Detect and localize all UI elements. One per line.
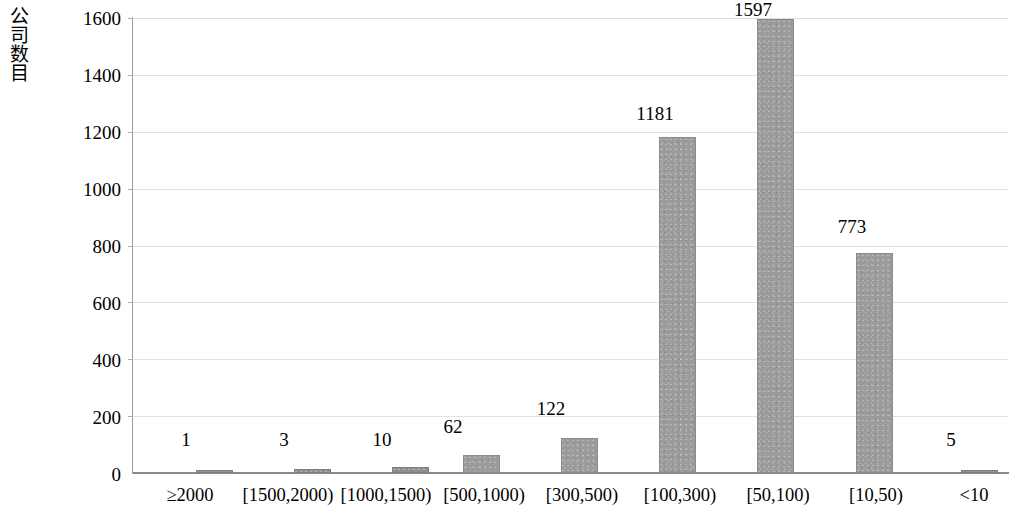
bar-6 bbox=[757, 19, 794, 473]
y-axis-tick-labels: 1600 1400 1200 1000 800 600 400 200 0 bbox=[55, 0, 121, 509]
bar-5 bbox=[659, 137, 696, 473]
data-label-1: 3 bbox=[254, 430, 314, 449]
tick-mark bbox=[128, 359, 133, 360]
y-tick-label: 1200 bbox=[55, 123, 121, 142]
bar-8 bbox=[961, 470, 998, 473]
data-label-5: 1181 bbox=[619, 104, 691, 123]
bar-0 bbox=[196, 470, 233, 473]
y-tick-label: 600 bbox=[55, 294, 121, 313]
y-tick-label: 0 bbox=[55, 465, 121, 484]
tick-mark bbox=[128, 132, 133, 133]
x-tick-label-6: [50,100) bbox=[729, 484, 827, 506]
y-tick-label: 200 bbox=[55, 408, 121, 427]
y-tick-label: 400 bbox=[55, 351, 121, 370]
x-tick-label-4: [300,500) bbox=[533, 484, 631, 506]
gridline-1200 bbox=[133, 132, 1008, 133]
y-tick-label: 1600 bbox=[55, 9, 121, 28]
x-tick-label-1: [1500,2000) bbox=[239, 484, 337, 506]
y-axis-title: 公司数目 bbox=[4, 6, 30, 82]
data-label-8: 5 bbox=[921, 430, 981, 449]
tick-mark bbox=[128, 246, 133, 247]
data-label-6: 1597 bbox=[717, 0, 789, 19]
y-tick-label: 800 bbox=[55, 237, 121, 256]
data-label-0: 1 bbox=[156, 430, 216, 449]
data-label-7: 773 bbox=[819, 217, 885, 236]
data-label-2: 10 bbox=[352, 430, 412, 449]
tick-mark bbox=[128, 189, 133, 190]
x-tick-label-2: [1000,1500) bbox=[337, 484, 435, 506]
x-tick-label-5: [100,300) bbox=[631, 484, 729, 506]
bar-2 bbox=[392, 467, 429, 473]
bar-7 bbox=[856, 253, 893, 473]
bar-chart: 公司数目 1600 1400 1200 1000 800 600 400 200… bbox=[0, 0, 1018, 509]
data-label-3: 62 bbox=[423, 417, 483, 436]
data-label-4: 122 bbox=[521, 399, 581, 418]
gridline-800 bbox=[133, 246, 1008, 247]
y-tick-label: 1400 bbox=[55, 66, 121, 85]
x-tick-label-7: [10,50) bbox=[827, 484, 925, 506]
gridline-1000 bbox=[133, 189, 1008, 190]
bar-1 bbox=[294, 469, 331, 473]
tick-mark bbox=[128, 18, 133, 19]
gridline-1600 bbox=[133, 18, 1008, 19]
x-tick-label-0: ≥2000 bbox=[141, 484, 239, 506]
bar-4 bbox=[561, 438, 598, 473]
bar-3 bbox=[463, 455, 500, 473]
y-tick-label: 1000 bbox=[55, 180, 121, 199]
tick-mark bbox=[128, 416, 133, 417]
tick-mark bbox=[128, 75, 133, 76]
tick-mark bbox=[128, 302, 133, 303]
x-tick-label-3: [500,1000) bbox=[435, 484, 533, 506]
gridline-1400 bbox=[133, 75, 1008, 76]
x-tick-label-8: <10 bbox=[925, 484, 1018, 506]
